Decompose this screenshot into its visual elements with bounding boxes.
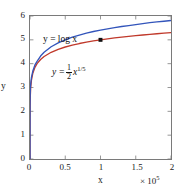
x-axis-multiplier-exponent: 5 xyxy=(156,174,159,181)
x-axis-label: x xyxy=(98,175,103,185)
y-tick-label-6: 6 xyxy=(11,10,25,20)
annotation-log-equation: y = log x xyxy=(43,34,77,44)
y-tick-label-2: 2 xyxy=(11,105,25,115)
fraction-numerator: 1 xyxy=(66,64,72,72)
plot-area: y = log x y =12x1/5 xyxy=(29,15,172,160)
x-tick-label-3: 1.5 xyxy=(127,162,147,172)
fraction-denominator: 2 xyxy=(66,72,72,81)
x-tick-label-0: 0 xyxy=(19,162,39,172)
intersection-marker xyxy=(99,38,103,42)
annotation-power-equation: y =12x1/5 xyxy=(52,64,86,82)
y-tick-label-1: 1 xyxy=(11,129,25,139)
annotation-power-exponent: 1/5 xyxy=(77,65,85,72)
x-axis-multiplier-base: × 10 xyxy=(140,176,156,186)
x-tick-label-1: 0.5 xyxy=(55,162,75,172)
y-tick-label-5: 5 xyxy=(11,33,25,43)
x-axis-multiplier: × 105 xyxy=(140,174,160,186)
y-tick-label-3: 3 xyxy=(11,81,25,91)
annotation-power-fraction: 12 xyxy=(66,64,72,82)
curve-log-x xyxy=(30,33,171,159)
annotation-power-equation-lhs: y = xyxy=(52,67,65,77)
y-tick-label-4: 4 xyxy=(11,57,25,67)
x-tick-label-4: 2 xyxy=(162,162,182,172)
annotation-log-equation-text: y = log x xyxy=(43,34,77,44)
y-axis-label: y xyxy=(1,81,6,91)
x-tick-label-2: 1 xyxy=(91,162,111,172)
figure: 6 5 4 3 2 1 0 y 0 0.5 1 1.5 2 x × 105 y … xyxy=(0,0,184,190)
